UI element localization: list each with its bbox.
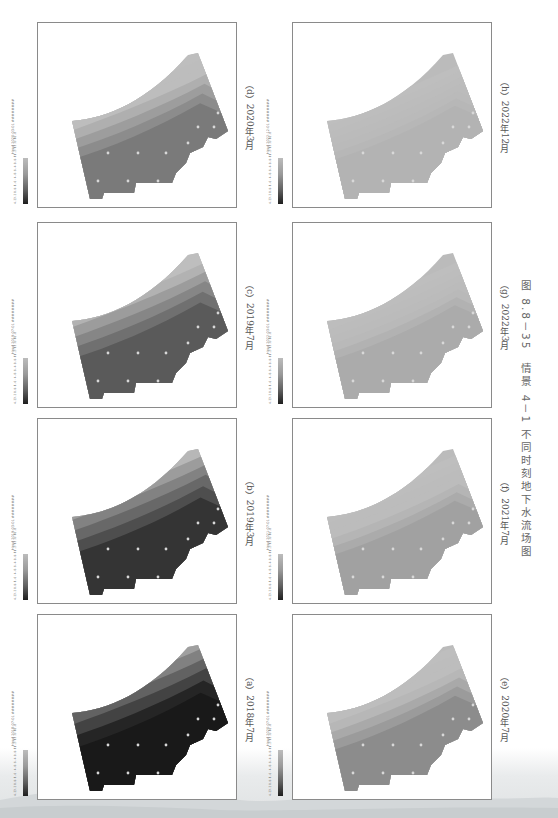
legend-value: -4.0 bbox=[269, 569, 277, 576]
legend-value: 3.2 bbox=[14, 193, 22, 198]
legend-value: -16.0 bbox=[14, 724, 22, 733]
legend-value: 4.2 bbox=[14, 791, 22, 796]
contour-map bbox=[292, 614, 492, 800]
legend-value: -11.2 bbox=[14, 742, 22, 751]
legend-labels: 4.23.20.8-1.6-4.0-6.4-8.8-11.2-13.6-16.0 bbox=[269, 360, 277, 404]
legend-value: -6.4 bbox=[14, 758, 22, 765]
legend-value: -11.2 bbox=[269, 546, 277, 555]
legend-value: -4.0 bbox=[14, 569, 22, 576]
legend-value: -13.6 bbox=[14, 141, 22, 150]
legend-color-bar bbox=[23, 158, 28, 204]
contour-map bbox=[37, 614, 237, 800]
figure-panel-e: Head 2020-07-01 ########4.23.20.8-1.6-4.… bbox=[265, 614, 505, 804]
legend-value: -13.6 bbox=[269, 341, 277, 350]
legend-value: -16.0 bbox=[14, 332, 22, 341]
subfigure-caption-g: （g）2022年3月 bbox=[498, 222, 512, 408]
legend-value: 0.8 bbox=[14, 584, 22, 589]
legend-value: 3.2 bbox=[14, 785, 22, 790]
contour-map bbox=[37, 418, 237, 604]
legend-value: 0.8 bbox=[14, 188, 22, 193]
legend-value: -13.6 bbox=[14, 733, 22, 742]
figure-panel-f: Head 2021-07-01 ########4.23.20.8-1.6-4.… bbox=[265, 418, 505, 608]
legend-value: -6.4 bbox=[269, 758, 277, 765]
legend-value: -8.8 bbox=[269, 751, 277, 758]
legend-value: -6.4 bbox=[14, 366, 22, 373]
legend-value: -1.6 bbox=[14, 381, 22, 388]
legend-value: -6.4 bbox=[14, 166, 22, 173]
legend-value: 0.8 bbox=[269, 188, 277, 193]
legend-value: 0.8 bbox=[14, 780, 22, 785]
legend-value: -11.2 bbox=[14, 150, 22, 159]
legend-value: 3.2 bbox=[14, 393, 22, 398]
contour-map bbox=[292, 22, 492, 208]
legend: Head 2019-07-01 ########4.23.20.8-1.6-4.… bbox=[10, 222, 32, 408]
legend: Head 2020-07-01 ########4.23.20.8-1.6-4.… bbox=[265, 614, 287, 800]
legend-value: 0.8 bbox=[269, 388, 277, 393]
legend-value: -16.0 bbox=[269, 724, 277, 733]
legend-value: -4.0 bbox=[269, 173, 277, 180]
legend-value: 4.2 bbox=[14, 399, 22, 404]
legend-value: -8.8 bbox=[269, 359, 277, 366]
legend-value: 0.8 bbox=[269, 780, 277, 785]
legend-value: -6.4 bbox=[269, 166, 277, 173]
legend-value: -13.6 bbox=[14, 341, 22, 350]
subfigure-caption-e: （e）2020年7月 bbox=[498, 614, 512, 800]
legend-value: -13.6 bbox=[14, 537, 22, 546]
legend-value: 3.2 bbox=[14, 589, 22, 594]
legend-value: -16.0 bbox=[14, 132, 22, 141]
legend-value: 3.2 bbox=[269, 785, 277, 790]
legend-value: 4.2 bbox=[14, 595, 22, 600]
legend-value: 3.2 bbox=[269, 589, 277, 594]
figure-panel-d: Head 2020-03-01 ########4.23.20.8-1.6-4.… bbox=[10, 22, 250, 212]
legend-value: -8.8 bbox=[14, 359, 22, 366]
subfigure-caption-a: （a）2018年7月 bbox=[243, 614, 257, 800]
legend-value: 3.2 bbox=[269, 193, 277, 198]
legend-color-bar bbox=[23, 750, 28, 796]
legend-labels: 4.23.20.8-1.6-4.0-6.4-8.8-11.2-13.6-16.0 bbox=[14, 752, 22, 796]
legend-value: -11.2 bbox=[14, 546, 22, 555]
contour-map bbox=[37, 22, 237, 208]
figure-panel-a: Head 2018-07-01 ########4.23.20.8-1.6-4.… bbox=[10, 614, 250, 804]
contour-map bbox=[292, 418, 492, 604]
legend-value: -13.6 bbox=[269, 141, 277, 150]
legend-value: 4.2 bbox=[269, 199, 277, 204]
legend-value: -16.0 bbox=[269, 132, 277, 141]
legend-color-bar bbox=[278, 554, 283, 600]
legend-value: -8.8 bbox=[269, 159, 277, 166]
legend-value: -1.6 bbox=[14, 181, 22, 188]
subfigure-caption-d: （d）2020年3月 bbox=[243, 22, 257, 208]
figure-caption: 图 8.8－35 情景 4－1 不同时刻地下水流场图 bbox=[517, 280, 535, 560]
legend-labels: 4.23.20.8-1.6-4.0-6.4-8.8-11.2-13.6-16.0 bbox=[269, 160, 277, 204]
subfigure-caption-h: （h）2022年12月 bbox=[498, 22, 512, 208]
legend-value: -11.2 bbox=[269, 742, 277, 751]
legend-value: -4.0 bbox=[14, 173, 22, 180]
legend-value: -16.0 bbox=[14, 528, 22, 537]
legend-value: -8.8 bbox=[14, 555, 22, 562]
contour-map bbox=[292, 222, 492, 408]
legend-value: -4.0 bbox=[14, 765, 22, 772]
legend-value: 4.2 bbox=[269, 399, 277, 404]
legend-value: -4.0 bbox=[14, 373, 22, 380]
legend-value: -6.4 bbox=[269, 562, 277, 569]
legend: Head 2018-07-01 ########4.23.20.8-1.6-4.… bbox=[10, 614, 32, 800]
legend-value: 4.2 bbox=[14, 199, 22, 204]
legend-value: -1.6 bbox=[14, 773, 22, 780]
legend: Head 2022-12-01 ########4.23.20.8-1.6-4.… bbox=[265, 22, 287, 208]
legend-value: -4.0 bbox=[269, 765, 277, 772]
legend-value: -8.8 bbox=[14, 751, 22, 758]
legend-labels: 4.23.20.8-1.6-4.0-6.4-8.8-11.2-13.6-16.0 bbox=[14, 360, 22, 404]
legend: Head 2020-03-01 ########4.23.20.8-1.6-4.… bbox=[10, 22, 32, 208]
legend-labels: 4.23.20.8-1.6-4.0-6.4-8.8-11.2-13.6-16.0 bbox=[14, 160, 22, 204]
subfigure-caption-b: （b）2019年3月 bbox=[243, 418, 257, 604]
legend: Head 2021-07-01 ########4.23.20.8-1.6-4.… bbox=[265, 418, 287, 604]
figure-panel-g: Head 2022-03-01 ########4.23.20.8-1.6-4.… bbox=[265, 222, 505, 412]
legend-value: -1.6 bbox=[269, 577, 277, 584]
legend-value: 0.8 bbox=[14, 388, 22, 393]
legend-labels: 4.23.20.8-1.6-4.0-6.4-8.8-11.2-13.6-16.0 bbox=[14, 556, 22, 600]
legend-value: -16.0 bbox=[269, 332, 277, 341]
legend-value: -6.4 bbox=[14, 562, 22, 569]
legend-value: -11.2 bbox=[269, 350, 277, 359]
legend-value: -8.8 bbox=[269, 555, 277, 562]
figure-panel-c: Head 2019-07-01 ########4.23.20.8-1.6-4.… bbox=[10, 222, 250, 412]
legend-color-bar bbox=[23, 358, 28, 404]
